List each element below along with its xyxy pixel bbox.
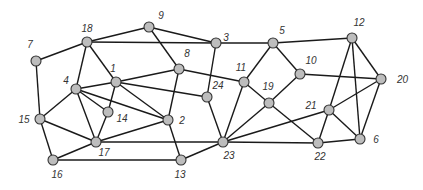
node-8	[174, 64, 184, 74]
node-21	[324, 105, 334, 115]
edge-8-2	[168, 69, 179, 120]
node-23	[218, 137, 228, 147]
node-20	[376, 74, 386, 84]
node-11	[239, 77, 249, 87]
edge-18-4	[76, 42, 87, 89]
edge-4-15	[40, 89, 76, 119]
node-4	[71, 84, 81, 94]
node-18	[82, 37, 92, 47]
edge-5-10	[273, 43, 300, 74]
node-label-12: 12	[353, 17, 365, 28]
edge-21-6	[329, 110, 360, 139]
node-label-7: 7	[27, 39, 33, 50]
node-label-1: 1	[110, 63, 116, 74]
node-label-9: 9	[158, 10, 164, 21]
node-5	[268, 38, 278, 48]
node-label-24: 24	[211, 80, 224, 91]
edge-2-13	[168, 120, 181, 160]
node-10	[295, 69, 305, 79]
node-label-20: 20	[396, 74, 409, 85]
node-9	[144, 22, 154, 32]
node-label-6: 6	[373, 134, 379, 145]
edge-22-6	[318, 139, 360, 143]
edge-23-21	[223, 110, 329, 142]
node-label-10: 10	[305, 55, 317, 66]
node-label-22: 22	[313, 151, 326, 162]
edge-10-19	[269, 74, 300, 103]
edge-15-16	[40, 119, 53, 160]
node-6	[355, 134, 365, 144]
edge-8-1	[116, 69, 179, 82]
edge-7-15	[36, 61, 40, 119]
node-label-11: 11	[236, 62, 246, 73]
edge-16-17	[53, 142, 96, 160]
graph-diagram: 718935122010111981424142151716132322216	[0, 0, 423, 190]
node-label-14: 14	[116, 113, 128, 124]
edge-7-18	[36, 42, 87, 61]
node-label-23: 23	[222, 150, 235, 161]
edge-12-21	[329, 38, 352, 110]
node-label-13: 13	[174, 169, 186, 180]
node-15	[35, 114, 45, 124]
node-2	[163, 115, 173, 125]
node-7	[31, 56, 41, 66]
edge-13-23	[181, 142, 223, 160]
node-19	[264, 98, 274, 108]
edge-23-22	[223, 142, 318, 143]
node-label-19: 19	[262, 81, 274, 92]
node-label-16: 16	[51, 169, 63, 180]
edge-1-4	[76, 82, 116, 89]
node-label-18: 18	[81, 23, 93, 34]
node-label-5: 5	[279, 25, 285, 36]
edge-12-20	[352, 38, 381, 79]
edge-18-1	[87, 42, 116, 82]
node-12	[347, 33, 357, 43]
node-22	[313, 138, 323, 148]
node-17	[91, 137, 101, 147]
edge-18-9	[87, 27, 149, 42]
edge-5-11	[244, 43, 273, 82]
edge-2-17	[96, 120, 168, 142]
node-label-15: 15	[18, 114, 30, 125]
edge-5-12	[273, 38, 352, 43]
node-14	[103, 107, 113, 117]
edge-20-6	[360, 79, 381, 139]
edge-18-3	[87, 42, 216, 43]
node-label-3: 3	[223, 32, 229, 43]
edge-24-23	[207, 97, 223, 142]
node-24	[202, 92, 212, 102]
edge-1-24	[116, 82, 207, 97]
edge-12-6	[352, 38, 360, 139]
node-label-4: 4	[63, 75, 69, 86]
node-label-21: 21	[304, 100, 316, 111]
node-1	[111, 77, 121, 87]
node-13	[176, 155, 186, 165]
node-label-8: 8	[184, 48, 190, 59]
node-label-17: 17	[98, 147, 110, 158]
node-label-2: 2	[178, 115, 185, 126]
node-16	[48, 155, 58, 165]
node-3	[211, 38, 221, 48]
edge-15-17	[40, 119, 96, 142]
